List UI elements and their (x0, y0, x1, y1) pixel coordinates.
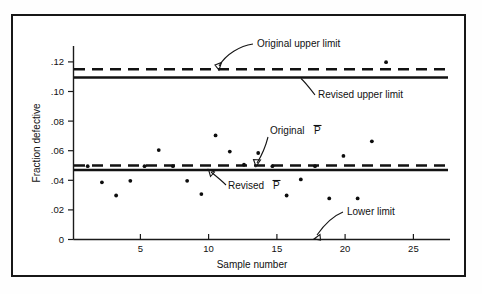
annotation-revised-pbar-text: Revised (228, 180, 264, 191)
data-point (256, 151, 260, 155)
y-tick-label-04: .04 (51, 175, 64, 186)
data-point (342, 154, 346, 158)
original-pbar-leader (257, 137, 268, 163)
x-tick-label-5: 5 (138, 243, 143, 254)
data-point (327, 197, 331, 201)
annotation-revised-upper-limit: Revised upper limit (318, 89, 403, 100)
y-tick-label-08: .08 (51, 116, 64, 127)
lower-limit-leader (317, 212, 343, 235)
data-point (356, 197, 360, 201)
data-point (114, 194, 118, 198)
y-tick-label-10: .10 (51, 86, 64, 97)
x-axis-title: Sample number (217, 259, 288, 270)
data-point (171, 164, 175, 168)
data-point (157, 148, 161, 152)
data-point (271, 164, 275, 168)
y-ticks-group (68, 62, 74, 240)
data-point (128, 179, 132, 183)
annotation-original-pbar-text: Original (270, 125, 304, 136)
y-axis-title: Fraction defective (31, 103, 42, 182)
data-point (285, 194, 289, 198)
data-point (313, 164, 317, 168)
data-point (100, 180, 104, 184)
x-tick-label-10: 10 (203, 243, 214, 254)
data-point (143, 164, 147, 168)
annotation-original-upper-limit: Original upper limit (257, 38, 341, 49)
annotation-labels: Original upper limit Revised upper limit… (228, 38, 403, 217)
x-tick-label-20: 20 (340, 243, 351, 254)
data-point (199, 192, 203, 196)
y-tick-label-02: .02 (51, 204, 64, 215)
annotation-lower-limit: Lower limit (347, 206, 395, 217)
x-tick-labels: 5 10 15 20 25 (138, 243, 419, 254)
data-point (228, 150, 232, 154)
data-point (185, 179, 189, 183)
y-tick-labels: 0 .02 .04 .06 .08 .10 .12 (51, 56, 64, 245)
y-tick-label-0: 0 (59, 234, 64, 245)
data-point (370, 139, 374, 143)
x-ticks-group (140, 234, 413, 240)
original-upper-limit-leader (219, 44, 253, 66)
data-point (299, 178, 303, 182)
x-tick-label-25: 25 (408, 243, 419, 254)
data-point (86, 164, 90, 168)
y-tick-label-12: .12 (51, 56, 64, 67)
annotation-original-pbar: Original P (270, 125, 322, 136)
data-point (384, 60, 388, 64)
chart-svg: 0 .02 .04 .06 .08 .10 .12 5 10 15 20 25 … (0, 0, 482, 294)
data-point (214, 134, 218, 138)
annotation-original-pbar-symbol: P (314, 125, 321, 136)
y-tick-label-06: .06 (51, 145, 64, 156)
annotation-revised-pbar-symbol: P (273, 180, 280, 191)
annotation-leaders (209, 44, 344, 240)
x-tick-label-15: 15 (272, 243, 283, 254)
data-point (242, 163, 246, 167)
control-chart: 0 .02 .04 .06 .08 .10 .12 5 10 15 20 25 … (0, 0, 482, 294)
annotation-revised-pbar: Revised P (228, 180, 281, 191)
revised-upper-limit-leader (301, 79, 315, 96)
